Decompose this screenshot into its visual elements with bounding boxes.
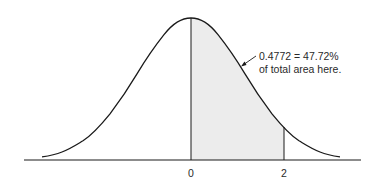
- normal-curve-chart: 0 2 0.4772 = 47.72% of total area here.: [0, 0, 383, 189]
- annotation-line-2: of total area here.: [259, 63, 341, 75]
- annotation-line-1: 0.4772 = 47.72%: [259, 50, 339, 62]
- shaded-area: [191, 18, 284, 160]
- x-tick-0: 0: [188, 167, 194, 179]
- arrow-head-icon: [241, 62, 247, 67]
- x-tick-2: 2: [281, 167, 287, 179]
